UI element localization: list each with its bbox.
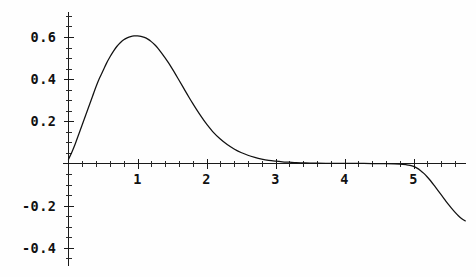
plot-figure: 12345 -0.4-0.20.20.40.6 bbox=[0, 0, 476, 277]
x-tick-label-2: 2 bbox=[202, 171, 211, 187]
y-tick-label-0_2: 0.2 bbox=[31, 113, 57, 129]
x-tick-label-5: 5 bbox=[409, 171, 418, 187]
y-tick-label-0_6: 0.6 bbox=[31, 29, 57, 45]
x-tick-label-1: 1 bbox=[133, 171, 142, 187]
x-tick-label-4: 4 bbox=[340, 171, 349, 187]
y-tick-label-neg0_2: -0.2 bbox=[22, 198, 57, 214]
plot-canvas: 12345 -0.4-0.20.20.40.6 bbox=[0, 0, 476, 277]
y-tick-label-neg0_4: -0.4 bbox=[22, 240, 57, 256]
x-tick-label-3: 3 bbox=[271, 171, 280, 187]
y-tick-label-0_4: 0.4 bbox=[31, 71, 57, 87]
figure-background bbox=[0, 0, 476, 277]
